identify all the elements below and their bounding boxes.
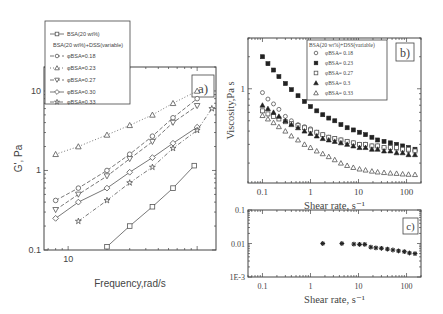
x-axis-label: Frequency,rad/s xyxy=(94,278,166,289)
y-tick-label: 0.1 xyxy=(28,245,41,255)
square-filled-marker xyxy=(388,141,392,145)
diamond-marker xyxy=(75,199,81,205)
square-filled-marker xyxy=(315,109,319,113)
asterisk-marker xyxy=(368,245,373,250)
square-marker xyxy=(105,244,110,249)
asterisk-marker xyxy=(320,241,325,246)
circle-marker xyxy=(53,198,58,203)
circle-marker xyxy=(314,51,318,55)
star-marker xyxy=(149,164,155,170)
asterisk-marker xyxy=(373,245,378,250)
circle-marker xyxy=(272,102,276,106)
triangle-marker xyxy=(394,171,399,176)
x-tick-label: 100 xyxy=(401,282,413,291)
triangle-marker xyxy=(276,124,281,129)
x-tick-label: 1 xyxy=(308,187,313,197)
legend-label: φBSA=0.33 xyxy=(67,99,96,105)
circle-marker xyxy=(76,186,81,191)
panel-c: 0.11101001E-30.010.1Shear rate, s⁻¹c) xyxy=(229,206,421,305)
legend-label: φBSA= 0.3 xyxy=(325,80,350,86)
triangle-marker xyxy=(271,120,276,125)
asterisk-marker xyxy=(362,242,367,247)
square-marker xyxy=(55,32,59,36)
circle-marker xyxy=(105,168,110,173)
triangle-filled-marker xyxy=(271,110,276,115)
square-filled-marker xyxy=(272,68,276,72)
triangle-down-marker xyxy=(76,192,82,197)
legend: BSA(20 wt%)+DSS(variable)φBSA= 0.18φBSA=… xyxy=(307,40,387,100)
panel-label-text: b) xyxy=(400,46,410,60)
square-filled-marker xyxy=(321,113,325,117)
asterisk-marker xyxy=(339,241,344,246)
triangle-marker xyxy=(375,169,380,174)
legend-label: φBSA= 0.33 xyxy=(325,90,353,96)
triangle-marker xyxy=(289,133,294,138)
legend-label: BSA(20 wt%) xyxy=(67,31,100,37)
square-filled-marker xyxy=(289,88,293,92)
triangle-marker xyxy=(357,167,362,172)
square-filled-marker xyxy=(339,123,343,127)
triangle-filled-marker xyxy=(260,103,265,108)
triangle-down-marker xyxy=(127,157,133,162)
circle-marker xyxy=(277,107,281,111)
triangle-down-marker xyxy=(170,120,176,125)
square-filled-marker xyxy=(277,75,281,79)
triangle-marker xyxy=(326,154,331,159)
triangle-down-marker xyxy=(150,139,156,144)
square-filled-marker xyxy=(327,116,331,120)
y-axis-label: G', Pa xyxy=(13,144,24,172)
triangle-down-marker xyxy=(194,104,200,109)
square-filled-marker xyxy=(296,94,300,98)
circle-marker xyxy=(195,96,200,101)
y-tick-label: 0.1 xyxy=(235,206,245,215)
star-marker xyxy=(127,180,133,186)
asterisk-marker xyxy=(396,249,401,254)
square-filled-marker xyxy=(370,135,374,139)
x-tick-label: 10 xyxy=(63,254,73,264)
circle-marker xyxy=(266,97,270,101)
y-tick-label: 10 xyxy=(31,86,41,96)
triangle-filled-marker xyxy=(406,152,411,157)
legend-entry: φBSA=0.30 xyxy=(50,89,96,95)
square-marker xyxy=(272,114,276,118)
circle-marker xyxy=(127,152,132,157)
legend-label: φBSA=0.27 xyxy=(67,77,96,83)
series-line xyxy=(56,127,198,218)
asterisk-marker xyxy=(391,248,396,253)
series-3 xyxy=(53,104,200,213)
diamond-marker xyxy=(104,185,110,191)
x-tick-label: 1 xyxy=(308,282,312,291)
plot-frame xyxy=(248,210,421,277)
square-filled-marker xyxy=(345,126,349,130)
triangle-marker xyxy=(127,122,133,127)
diamond-marker xyxy=(53,215,59,221)
triangle-marker xyxy=(400,171,405,176)
legend-subtitle: BSA(20 wt%)+DSS(variable) xyxy=(53,42,123,48)
triangle-filled-marker xyxy=(394,150,399,155)
triangle-marker xyxy=(104,132,110,137)
panel-b: 0.11101001Shear rate, s⁻¹Viscosity,Pa sb… xyxy=(225,38,421,211)
triangle-marker xyxy=(265,116,270,121)
triangle-marker xyxy=(406,172,411,177)
square-filled-marker xyxy=(283,82,287,86)
asterisk-marker xyxy=(357,242,362,247)
triangle-marker xyxy=(412,172,417,177)
square-marker xyxy=(407,147,411,151)
square-filled-marker xyxy=(351,128,355,132)
square-filled-marker xyxy=(266,62,270,66)
legend-entry: φBSA=0.27 xyxy=(50,77,96,83)
square-filled-marker xyxy=(376,138,380,142)
panel-label-text: c) xyxy=(406,220,415,233)
triangle-marker xyxy=(345,163,350,168)
square-filled-marker xyxy=(358,130,362,134)
x-axis-label: Shear rate, s⁻¹ xyxy=(304,200,365,211)
triangle-marker xyxy=(363,168,368,173)
asterisk-marker xyxy=(385,247,390,252)
star-marker xyxy=(75,218,81,224)
legend-entry: BSA(20 wt%) xyxy=(50,31,100,37)
square-marker xyxy=(395,146,399,150)
legend-entry: φBSA=0.23 xyxy=(50,65,96,71)
triangle-marker xyxy=(388,171,393,176)
legend-entry: φBSA=0.18 xyxy=(50,53,96,59)
triangle-marker xyxy=(296,137,301,142)
